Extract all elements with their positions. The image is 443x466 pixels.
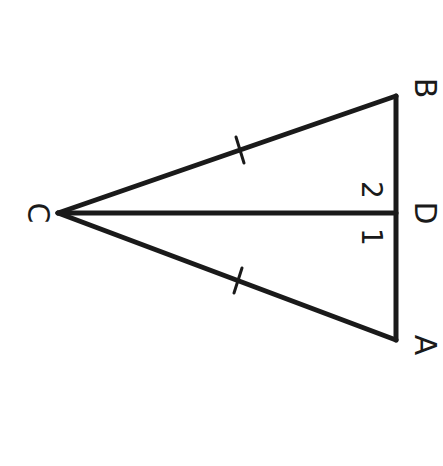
vertex-label-c: C bbox=[21, 203, 56, 224]
angle-label-1: 1 bbox=[355, 228, 388, 246]
segment-ca bbox=[58, 213, 396, 340]
segment-cb bbox=[58, 96, 396, 213]
triangle-diagram: C B D A 2 1 bbox=[0, 0, 443, 466]
vertex-label-d: D bbox=[408, 201, 443, 224]
vertex-label-b: B bbox=[408, 78, 443, 99]
vertex-label-a: A bbox=[408, 335, 443, 356]
angle-label-2: 2 bbox=[355, 181, 388, 199]
